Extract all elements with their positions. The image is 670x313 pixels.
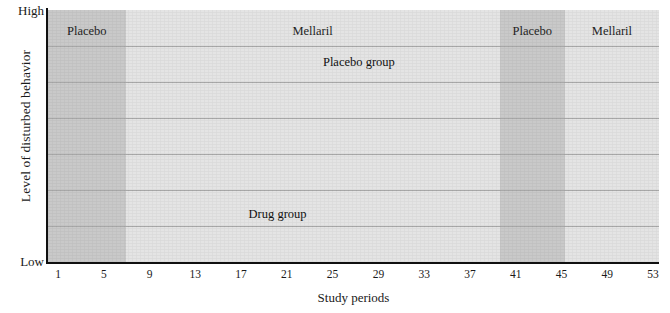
x-tick-29: 29 (365, 268, 391, 280)
y-axis-title: Level of disturbed behavior (18, 26, 34, 226)
x-tick-1: 1 (45, 268, 71, 280)
gridline-4 (48, 154, 659, 155)
annotation-placebo-group: Placebo group (323, 55, 395, 70)
x-tick-13: 13 (182, 268, 208, 280)
gridline-6 (48, 226, 659, 227)
x-axis-line (46, 262, 659, 264)
band-label-mellaril-1: Mellaril (263, 24, 363, 39)
y-axis-line (46, 8, 48, 264)
x-tick-9: 9 (137, 268, 163, 280)
plot-area: PlaceboMellarilPlaceboMellaril Placebo g… (48, 10, 659, 262)
x-tick-33: 33 (411, 268, 437, 280)
y-axis-top-label: High (18, 3, 44, 19)
x-tick-21: 21 (274, 268, 300, 280)
gridline-1 (48, 46, 659, 47)
y-axis-bottom-label: Low (20, 254, 44, 270)
band-mellaril-1 (126, 10, 500, 262)
gridline-3 (48, 118, 659, 119)
x-tick-41: 41 (503, 268, 529, 280)
band-label-mellaril-3: Mellaril (562, 24, 659, 39)
x-tick-17: 17 (228, 268, 254, 280)
annotation-drug-group: Drug group (249, 207, 307, 222)
x-tick-53: 53 (640, 268, 666, 280)
x-tick-45: 45 (548, 268, 574, 280)
x-tick-25: 25 (320, 268, 346, 280)
x-axis-title: Study periods (48, 290, 659, 306)
x-tick-49: 49 (594, 268, 620, 280)
y-axis-bottom-label-wrap: Low (0, 254, 44, 270)
band-mellaril-3 (565, 10, 659, 262)
band-placebo-2 (500, 10, 565, 262)
y-axis-top-label-wrap: High (0, 3, 44, 19)
gridline-5 (48, 190, 659, 191)
x-tick-37: 37 (457, 268, 483, 280)
band-label-placebo-0: Placebo (48, 24, 137, 39)
band-placebo-0 (48, 10, 126, 262)
gridline-2 (48, 82, 659, 83)
chart-figure: High Low Level of disturbed behavior Pla… (0, 0, 670, 313)
x-tick-5: 5 (91, 268, 117, 280)
